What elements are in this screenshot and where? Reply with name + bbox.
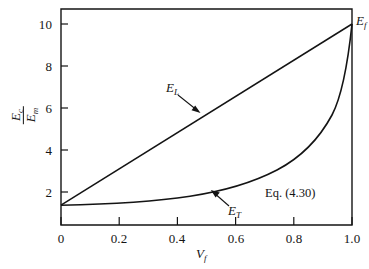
x-axis-title: Vf [196, 246, 206, 262]
curve-label-e-t-symbol: E [228, 203, 236, 218]
y-tick-label-8: 8 [22, 59, 52, 75]
x-axis-ticks [61, 217, 352, 225]
figure-container: 10 8 6 4 2 0 0.2 0.4 0.6 0.8 1.0 Ec Em V… [0, 0, 369, 269]
curve-label-e-l-subscript: L [174, 87, 179, 97]
plot-svg [0, 0, 369, 269]
y-axis-title: Ec Em [2, 92, 46, 138]
y-axis-numerator-symbol: E [8, 113, 23, 121]
y-axis-numerator: Ec [9, 106, 22, 124]
y-tick-label-4: 4 [22, 143, 52, 159]
curve-label-e-t: ET [228, 203, 241, 219]
x-axis-title-subscript: f [204, 253, 207, 263]
y-axis-denominator: Em [24, 106, 37, 124]
x-tick-label-0p6: 0.6 [216, 231, 256, 247]
y-axis-numerator-subscript: c [15, 109, 25, 113]
y-axis-title-rotated: Ec Em [9, 106, 39, 124]
x-tick-label-0: 0 [41, 231, 81, 247]
curve-label-e-l: EL [166, 80, 179, 96]
endpoint-label-e-f-symbol: E [356, 13, 364, 28]
x-axis-title-symbol: V [196, 246, 204, 261]
x-tick-label-0p8: 0.8 [274, 231, 314, 247]
e-l-annotation-arrow [178, 95, 201, 113]
y-axis-denominator-symbol: E [23, 114, 38, 122]
x-tick-label-0p4: 0.4 [157, 231, 197, 247]
x-tick-label-0p2: 0.2 [99, 231, 139, 247]
y-axis-ticks [61, 24, 68, 192]
y-axis-fraction: Ec Em [9, 106, 38, 124]
x-tick-label-1p0: 1.0 [332, 231, 369, 247]
endpoint-label-e-f: Ef [356, 13, 366, 29]
curve-label-e-t-subscript: T [236, 210, 241, 220]
y-tick-label-2: 2 [22, 185, 52, 201]
curve-e-l [61, 24, 352, 205]
y-axis-denominator-subscript: m [30, 108, 40, 115]
y-tick-label-10: 10 [22, 17, 52, 33]
curve-label-e-l-symbol: E [166, 80, 174, 95]
equation-note: Eq. (4.30) [265, 186, 315, 201]
e-t-annotation-arrow [211, 190, 229, 206]
endpoint-label-e-f-subscript: f [364, 20, 367, 30]
